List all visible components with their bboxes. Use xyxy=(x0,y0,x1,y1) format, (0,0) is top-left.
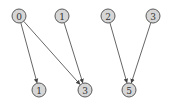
node-t3: 3 xyxy=(146,9,160,23)
edge-t0-b1 xyxy=(21,23,37,83)
graph-canvas: 0123135 xyxy=(0,0,169,104)
edge-t0-b3 xyxy=(24,21,80,84)
node-t1: 1 xyxy=(55,9,69,23)
node-t0: 0 xyxy=(12,9,26,23)
node-label: 1 xyxy=(59,12,65,22)
node-label: 5 xyxy=(126,86,132,96)
node-label: 1 xyxy=(36,86,42,96)
edge-t1-b3 xyxy=(64,23,83,83)
node-b3: 3 xyxy=(78,83,92,97)
node-b1: 1 xyxy=(32,83,46,97)
edge-t2-b5 xyxy=(110,23,127,83)
edges-group xyxy=(21,21,151,84)
nodes-group: 0123135 xyxy=(12,9,160,97)
node-label: 2 xyxy=(105,12,111,22)
node-b5: 5 xyxy=(122,83,136,97)
node-label: 3 xyxy=(82,86,88,96)
node-t2: 2 xyxy=(101,9,115,23)
node-label: 3 xyxy=(150,12,156,22)
node-label: 0 xyxy=(16,12,22,22)
edge-t3-b5 xyxy=(131,23,151,83)
